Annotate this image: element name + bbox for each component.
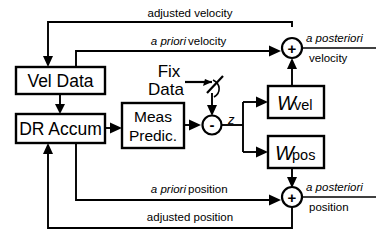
- block-w-pos[interactable]: W pos: [268, 136, 324, 168]
- junction-sum-velocity[interactable]: +: [282, 38, 302, 58]
- block-vel-data[interactable]: Vel Data: [16, 67, 105, 94]
- arrowhead-meas-predic-to-sum-z: [189, 120, 201, 131]
- label-fix-data-line2: Data: [148, 80, 184, 99]
- arrowhead-z-to-w-pos: [256, 147, 268, 158]
- wire-dr-accum-to-meas-predic: [105, 123, 122, 134]
- label-a-posteriori-velocity-sub: velocity: [309, 52, 348, 64]
- wire-z-bus: [222, 97, 268, 158]
- junction-sum-velocity-sign: +: [288, 40, 297, 57]
- wire-w-vel-to-sum-velocity: [287, 58, 297, 86]
- block-meas-predic[interactable]: Meas Predic.: [122, 103, 184, 148]
- label-a-priori-position-plain: position: [188, 183, 228, 195]
- block-dr-accum-label: DR Accum: [19, 119, 102, 139]
- junction-sum-z-sign: -: [210, 116, 215, 133]
- label-fix-data: Fix Data: [148, 62, 184, 99]
- label-a-priori-position-italic: a priori: [151, 183, 187, 195]
- block-vel-data-label: Vel Data: [27, 71, 93, 91]
- label-fix-data-line1: Fix: [158, 62, 181, 81]
- wire-w-pos-to-sum-position: [287, 168, 297, 188]
- switch-fix-data[interactable]: [185, 76, 223, 116]
- block-w-pos-sublabel: pos: [292, 147, 315, 163]
- block-meas-predic-label-line2: Predic.: [129, 127, 177, 144]
- arrowhead-vel-data-to-dr-accum: [55, 104, 65, 114]
- arrowhead-adjusted-position-to-dr-accum: [43, 143, 53, 154]
- block-w-vel[interactable]: W vel: [268, 86, 324, 118]
- label-a-priori-velocity-plain: velocity: [188, 35, 227, 47]
- wire-vel-data-to-dr-accum: [55, 94, 65, 114]
- block-meas-predic-label-line1: Meas: [134, 108, 172, 125]
- label-a-posteriori-position-sub: position: [309, 201, 349, 213]
- arrowhead-a-priori-velocity-to-sum: [269, 46, 281, 57]
- label-a-posteriori-velocity-italic: a posteriori: [306, 32, 363, 44]
- label-z-signal: z: [227, 112, 235, 127]
- label-a-posteriori-position-italic: a posteriori: [306, 181, 363, 193]
- wire-meas-predic-to-sum-z: [184, 120, 201, 131]
- arrowhead-a-priori-position-to-sum: [269, 195, 281, 206]
- label-adjusted-position: adjusted position: [147, 211, 233, 223]
- junction-sum-z[interactable]: -: [203, 116, 222, 135]
- block-dr-accum[interactable]: DR Accum: [16, 114, 105, 143]
- block-w-vel-sublabel: vel: [294, 97, 313, 113]
- junction-sum-position-sign: +: [288, 189, 297, 206]
- block-diagram-canvas: Vel Data DR Accum Meas Predic. W vel W p…: [0, 0, 380, 242]
- label-a-priori-position: a priori position: [151, 183, 228, 195]
- arrowhead-adjusted-velocity-to-vel-data: [43, 56, 53, 67]
- diagram-svg: Vel Data DR Accum Meas Predic. W vel W p…: [0, 0, 380, 242]
- label-a-priori-velocity-italic: a priori: [151, 35, 187, 47]
- label-adjusted-velocity: adjusted velocity: [147, 7, 232, 19]
- arrowhead-w-vel-to-sum-velocity: [287, 58, 297, 69]
- arrowhead-dr-accum-to-meas-predic: [110, 123, 122, 134]
- arrowhead-switch-pole: [203, 79, 212, 86]
- label-a-priori-velocity: a priori velocity: [151, 35, 227, 47]
- junction-sum-position[interactable]: +: [282, 187, 302, 207]
- arrowhead-fix-data-to-sum-z: [207, 105, 217, 116]
- arrowhead-z-to-w-vel: [256, 97, 268, 108]
